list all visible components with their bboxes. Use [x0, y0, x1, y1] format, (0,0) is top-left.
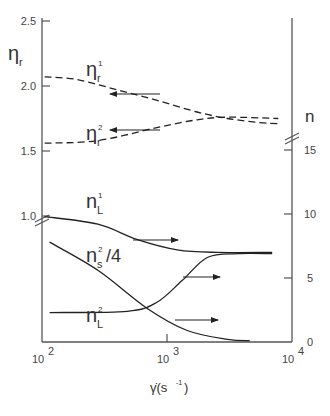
label-n-s-2-over-4-sub: s [97, 258, 103, 270]
label-n-s-2-over-4-main: n [86, 244, 97, 266]
right-tick-label: 5 [307, 272, 313, 284]
arrows [110, 94, 220, 320]
label-eta-r-2-main: η [86, 122, 97, 144]
x-tick-exponent: 3 [173, 345, 179, 357]
left-tick-label: 2.0 [21, 80, 36, 92]
x-tick-label: 10 [32, 353, 44, 365]
x-tick-exponent: 2 [48, 345, 54, 357]
series-eta-r-1 [45, 77, 279, 124]
label-eta-r-1-main: η [86, 58, 97, 80]
left-tick-label: 2.5 [21, 15, 36, 27]
label-n-s-2-over-4-suffix: /4 [106, 246, 121, 266]
label-n-s-2-over-4-sup: 2 [98, 245, 103, 254]
right-axis-title: n [305, 107, 314, 126]
x-tick-label: 10 [282, 353, 294, 365]
label-eta-r-1-sup: 1 [98, 59, 103, 68]
x-tick-label: 10 [157, 353, 169, 365]
label-n-L-1-sub: L [97, 204, 103, 216]
right-tick-label: 0 [307, 336, 313, 348]
axes [35, 18, 299, 342]
right-tick-label: 10 [304, 208, 316, 220]
left-tick-label: 1.5 [21, 145, 36, 157]
curves [45, 77, 279, 341]
label-eta-r-2-sub: r [97, 136, 101, 148]
x-axis-title-exp: -1 [176, 379, 182, 386]
left-tick-label: 1.0 [21, 210, 36, 222]
left-axis-title: η [8, 42, 19, 64]
label-eta-r-1-sub: r [97, 72, 101, 84]
label-n-L-2-sup: 2 [98, 305, 103, 314]
label-eta-r-2-sup: 2 [98, 123, 103, 132]
label-n-L-1-main: n [86, 190, 97, 212]
series-n-L-2 [50, 253, 273, 312]
label-n-L-2-sub: L [97, 318, 103, 330]
left-axis-title-sub: r [19, 56, 23, 68]
label-n-L-2-main: n [86, 304, 97, 326]
chart: 2.52.01.51.0151050102103104 ηrnγ̇(s-1)ηr… [0, 0, 330, 416]
x-tick-exponent: 4 [298, 345, 304, 357]
right-tick-label: 15 [304, 144, 316, 156]
x-axis-title: γ̇(s [150, 380, 168, 395]
label-n-L-1-sup: 1 [98, 191, 103, 200]
x-axis-title-close: ) [184, 380, 188, 395]
series-n-L-1 [45, 217, 273, 253]
series-n-s-2-over-4 [50, 242, 250, 341]
